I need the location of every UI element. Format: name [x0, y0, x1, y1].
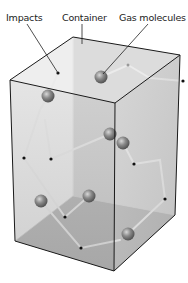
molecule: [117, 137, 130, 150]
container-diagram: [0, 0, 188, 283]
impact-dot: [22, 156, 25, 159]
front-face: [10, 80, 115, 271]
molecule: [35, 195, 48, 208]
molecule: [122, 228, 135, 241]
molecule: [95, 71, 108, 84]
impact-dot: [63, 215, 66, 218]
impact-dot-faint: [127, 64, 130, 67]
impact-dot: [79, 246, 82, 249]
impact-dot: [132, 162, 135, 165]
impact-dot: [49, 157, 52, 160]
molecule: [83, 190, 96, 203]
impact-dot: [163, 197, 166, 200]
impact-dot: [181, 79, 184, 82]
molecule: [42, 90, 55, 103]
